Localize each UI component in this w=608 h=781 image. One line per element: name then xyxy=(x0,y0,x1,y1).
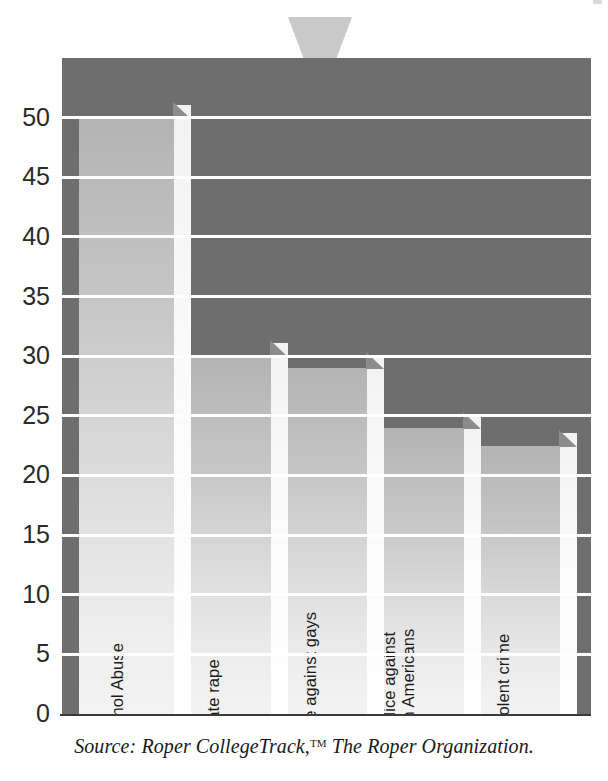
gridline-50 xyxy=(62,116,591,119)
bar-label-2: Date rape xyxy=(204,659,223,714)
bar-label-4: Prejudice against African Americans xyxy=(380,629,418,714)
chart-figure: 05101520253035404550 Alcohol AbuseDate r… xyxy=(0,0,608,781)
y-tick-label-30: 30 xyxy=(22,343,50,368)
y-axis: 05101520253035404550 xyxy=(0,0,58,781)
gridline-40 xyxy=(62,235,591,238)
bar-top-bevel xyxy=(559,430,577,447)
gridline-5 xyxy=(62,653,591,656)
y-tick-label-50: 50 xyxy=(22,105,50,130)
y-tick-label-35: 35 xyxy=(22,284,50,309)
y-tick-label-40: 40 xyxy=(22,224,50,249)
source-caption-prefix: Source: Roper CollegeTrack, xyxy=(74,735,310,757)
gridline-10 xyxy=(62,593,591,596)
y-tick-label-45: 45 xyxy=(22,164,50,189)
source-caption: Source: Roper CollegeTrack,TM The Roper … xyxy=(0,735,608,758)
plot-area: Alcohol AbuseDate rapePrejudice against … xyxy=(62,58,591,714)
y-tick-label-25: 25 xyxy=(22,403,50,428)
y-tick-label-5: 5 xyxy=(36,641,50,666)
axis-baseline xyxy=(60,714,591,716)
y-tick-label-15: 15 xyxy=(22,522,50,547)
gridline-15 xyxy=(62,534,591,537)
source-caption-suffix: The Roper Organization. xyxy=(327,735,534,757)
corner-speck-icon xyxy=(593,0,602,4)
bar-side-face xyxy=(174,105,191,714)
bar-side-face xyxy=(271,343,288,714)
gridline-20 xyxy=(62,474,591,477)
bar-side-face xyxy=(464,415,481,714)
gridline-30 xyxy=(62,355,591,358)
bar-label-5: Nonviolent crime xyxy=(494,634,513,714)
bar-label-3: Prejudice against gays xyxy=(301,612,320,714)
gridline-35 xyxy=(62,295,591,298)
gridline-45 xyxy=(62,176,591,179)
y-tick-label-10: 10 xyxy=(22,582,50,607)
y-tick-label-0: 0 xyxy=(36,701,50,726)
y-tick-label-20: 20 xyxy=(22,462,50,487)
trademark-symbol: TM xyxy=(310,737,327,749)
gridline-25 xyxy=(62,414,591,417)
